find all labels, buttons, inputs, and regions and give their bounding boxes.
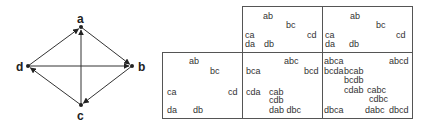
cell-top-left-string: db <box>264 40 274 49</box>
cell-top-left-string: cd <box>307 31 317 40</box>
node-d <box>26 64 30 68</box>
cell-top-right-string: bc <box>376 21 386 30</box>
cell-top-left-string: da <box>245 40 255 49</box>
cell-top-right-string: cd <box>396 31 406 40</box>
node-b <box>130 64 134 68</box>
cell-bottom-right-string: dabc <box>365 106 385 115</box>
cell-bottom-middle-string: dab dbc <box>269 106 301 115</box>
cell-top-left-string: ab <box>263 12 273 21</box>
cell-bottom-middle-string: cda <box>246 88 261 97</box>
cell-bottom-left-string: bc <box>210 67 220 76</box>
graph-edges <box>28 27 132 105</box>
cell-bottom-left-string: ca <box>167 88 177 97</box>
cell-bottom-middle-string: abc <box>284 57 299 66</box>
bottom-border <box>162 118 413 119</box>
cell-bottom-right-string: abcd <box>389 57 409 66</box>
cell-top-right-string: db <box>349 40 359 49</box>
cell-bottom-right-string: abca <box>324 57 344 66</box>
left-border-bottom <box>162 52 163 119</box>
edge-a-b <box>81 27 130 64</box>
node-label-d: d <box>16 60 23 74</box>
cell-bottom-right-string: bcdb <box>344 76 364 85</box>
cell-top-right-string: da <box>325 40 335 49</box>
cell-bottom-middle-string: bca <box>246 67 261 76</box>
node-label-b: b <box>138 60 145 74</box>
cell-bottom-middle-string: cdb <box>269 96 284 105</box>
cell-bottom-left-string: da <box>167 106 177 115</box>
cell-bottom-left-string: db <box>193 106 203 115</box>
column-divider-2 <box>322 6 323 119</box>
column-divider-1 <box>242 6 243 119</box>
node-label-c: c <box>77 109 84 123</box>
cell-top-right-string: ab <box>350 12 360 21</box>
cell-bottom-left-string: cd <box>228 88 238 97</box>
middle-border <box>162 52 413 53</box>
cell-bottom-right-string: cdbc <box>369 95 388 104</box>
edge-d-a <box>28 29 79 66</box>
cell-top-left-string: bc <box>286 21 296 30</box>
cell-bottom-right-string: dbcd <box>389 106 409 115</box>
cell-bottom-left-string: ab <box>189 57 199 66</box>
cell-bottom-right-string: bcda <box>324 67 344 76</box>
cell-bottom-right-string: dbca <box>324 106 344 115</box>
cell-bottom-middle-string: bcd <box>304 67 319 76</box>
node-c <box>79 103 83 107</box>
cell-bottom-right-string: cdab <box>344 86 364 95</box>
edge-c-d <box>30 68 81 105</box>
right-border <box>412 6 413 119</box>
top-row-top-border <box>242 6 413 7</box>
node-label-a: a <box>77 12 84 26</box>
edge-b-c <box>83 66 132 103</box>
